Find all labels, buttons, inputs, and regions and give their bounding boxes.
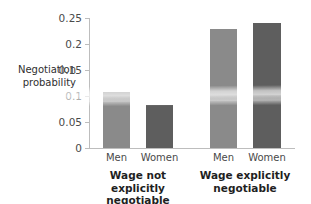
x-tick-label: Women [134, 152, 185, 164]
y-tick-mark [85, 122, 89, 123]
y-tick-mark [85, 70, 89, 71]
bar [253, 23, 281, 148]
bar [103, 92, 130, 148]
y-tick-mark [85, 96, 89, 97]
y-tick-label: 0.05 [59, 117, 82, 127]
bar-chart: Negotiation probability 00.050.10.150.20… [0, 0, 311, 204]
bar [146, 105, 173, 148]
y-tick-label: 0.25 [59, 13, 82, 23]
y-tick-mark [85, 44, 89, 45]
x-axis-line [89, 148, 295, 149]
y-axis-line [89, 18, 90, 149]
y-tick-label: 0.2 [65, 39, 82, 49]
x-tick-label: Women [241, 152, 293, 164]
y-tick-label: 0 [75, 143, 82, 153]
x-axis-group-label: Wage explicitly negotiable [196, 169, 294, 194]
x-axis-group-label: Wage not explicitly negotiable [89, 169, 187, 204]
y-tick-mark [85, 18, 89, 19]
y-tick-label: 0.15 [59, 65, 82, 75]
y-tick-label: 0.1 [65, 91, 82, 101]
y-tick-mark [85, 148, 89, 149]
bar [210, 29, 237, 148]
